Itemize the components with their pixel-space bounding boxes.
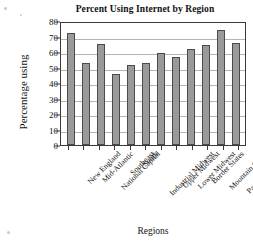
chart-title: Percent Using Internet by Region	[44, 3, 246, 15]
bar	[82, 63, 90, 145]
bar	[232, 43, 240, 145]
y-tick-mark	[55, 130, 60, 131]
scan-speck	[4, 7, 7, 10]
bar	[157, 53, 165, 145]
bar	[142, 63, 150, 145]
scan-speck	[7, 231, 10, 234]
x-axis-category-labels: New EnglandMid-AtlanticNational CapitalS…	[60, 150, 246, 220]
bar	[67, 33, 75, 145]
bar	[172, 57, 180, 145]
x-axis-title: Regions	[60, 226, 246, 236]
plot-area	[60, 22, 246, 146]
y-tick-mark	[55, 115, 60, 116]
bar	[217, 30, 225, 145]
bar	[112, 74, 120, 145]
y-tick-mark	[55, 99, 60, 100]
y-tick-mark	[55, 37, 60, 38]
y-tick-mark	[55, 68, 60, 69]
y-tick-mark	[55, 84, 60, 85]
bar	[202, 45, 210, 145]
bar	[187, 49, 195, 145]
y-tick-mark	[55, 22, 60, 23]
y-tick-mark	[55, 53, 60, 54]
scan-speck	[20, 14, 22, 16]
bar-chart: Percent Using Internet by Region Percent…	[0, 0, 253, 243]
bars-container	[61, 23, 245, 145]
y-tick-mark	[55, 146, 60, 147]
bar	[97, 44, 105, 145]
bar	[127, 65, 135, 145]
y-axis-title: Percentage using	[17, 37, 29, 147]
